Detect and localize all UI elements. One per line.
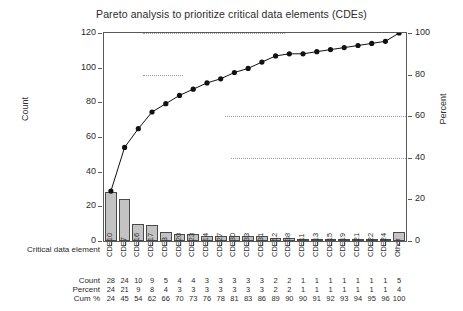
y-tick-left-60: 60: [70, 131, 96, 141]
cumulative-line: [104, 33, 406, 241]
cumulative-point-CDE7: [122, 145, 127, 150]
y-tick-right-20: 20: [415, 193, 441, 203]
cumulative-point-CDE17: [149, 109, 154, 114]
y-tick-right-60: 60: [415, 110, 441, 120]
column-header-CDE17: CDE17: [146, 233, 155, 257]
y-tickmark-left: [98, 172, 102, 173]
column-header-CDE16: CDE16: [132, 233, 141, 257]
y-tickmark-left: [98, 102, 102, 103]
column-header-CDE10: CDE10: [105, 233, 114, 257]
cumulative-point-CDE23: [191, 87, 196, 92]
column-header-CDE15: CDE15: [325, 233, 334, 257]
y-tickmark-right: [408, 199, 412, 200]
cumulative-point-CDE13: [314, 49, 319, 54]
y-axis-right-label: Percent: [438, 79, 448, 139]
chart-title: Pareto analysis to prioritize critical d…: [0, 8, 463, 20]
y-tick-left-100: 100: [70, 62, 96, 72]
row-label-cum: Cum %: [8, 294, 100, 303]
y-tick-left-20: 20: [70, 200, 96, 210]
column-header-CDE14: CDE14: [201, 233, 210, 257]
cell-count-Other: 5: [390, 276, 408, 285]
column-header-CDE13: CDE13: [311, 233, 320, 257]
y-tick-left-120: 120: [70, 27, 96, 37]
cumulative-point-CDE31: [259, 60, 264, 65]
cumulative-point-CDE27: [218, 76, 223, 81]
cell-cum-Other: 100: [390, 294, 408, 303]
y-tick-right-40: 40: [415, 152, 441, 162]
column-header-CDE38: CDE38: [283, 233, 292, 257]
cumulative-point-CDE14: [204, 80, 209, 85]
column-header-CDE3: CDE3: [160, 237, 169, 257]
y-tickmark-right: [408, 33, 412, 34]
column-header-CDE33: CDE33: [242, 233, 251, 257]
y-tickmark-right: [408, 241, 412, 242]
column-header-Other: Other: [393, 238, 402, 257]
cumulative-point-CDE10: [108, 189, 113, 194]
y-tickmark-left: [98, 206, 102, 207]
cumulative-point-CDE19: [342, 45, 347, 50]
column-header-CDE22: CDE22: [366, 233, 375, 257]
column-header-CDE20: CDE20: [174, 233, 183, 257]
cumulative-point-CDE38: [287, 51, 292, 56]
cumulative-point-Other: [397, 33, 402, 36]
y-tickmark-left: [98, 33, 102, 34]
column-header-CDE12: CDE12: [270, 233, 279, 257]
y-tickmark-right: [408, 158, 412, 159]
column-header-CDE24: CDE24: [379, 233, 388, 257]
cumulative-point-CDE22: [369, 41, 374, 46]
cumulative-point-CDE20: [177, 93, 182, 98]
column-header-CDE31: CDE31: [256, 233, 265, 257]
cumulative-point-CDE11: [300, 51, 305, 56]
y-tick-left-0: 0: [70, 235, 96, 245]
cumulative-point-CDE33: [246, 66, 251, 71]
cumulative-point-CDE30: [232, 70, 237, 75]
cumulative-line-series: [104, 33, 406, 241]
y-tickmark-left: [98, 137, 102, 138]
column-header-CDE23: CDE23: [187, 233, 196, 257]
column-header-CDE21: CDE21: [352, 233, 361, 257]
y-axis-left-label: Count: [20, 79, 30, 139]
cumulative-point-CDE24: [383, 39, 388, 44]
y-tickmark-right: [408, 75, 412, 76]
pareto-chart: Pareto analysis to prioritize critical d…: [0, 0, 463, 311]
y-tick-right-100: 100: [415, 27, 441, 37]
cumulative-point-CDE21: [355, 43, 360, 48]
cumulative-point-CDE16: [136, 126, 141, 131]
cell-percent-Other: 4: [390, 285, 408, 294]
column-header-CDE30: CDE30: [228, 233, 237, 257]
column-header-CDE19: CDE19: [338, 233, 347, 257]
y-tick-right-0: 0: [415, 235, 441, 245]
row-label-percent: Percent: [8, 285, 100, 294]
y-tick-left-40: 40: [70, 166, 96, 176]
cumulative-point-CDE3: [163, 101, 168, 106]
cumulative-point-CDE12: [273, 53, 278, 58]
y-tickmark-left: [98, 241, 102, 242]
column-header-CDE27: CDE27: [215, 233, 224, 257]
y-tick-right-80: 80: [415, 69, 441, 79]
column-header-CDE11: CDE11: [297, 233, 306, 257]
y-tickmark-left: [98, 68, 102, 69]
row-label-category: Critical data element: [8, 245, 100, 254]
y-tickmark-right: [408, 116, 412, 117]
y-tick-left-80: 80: [70, 96, 96, 106]
row-label-count: Count: [8, 276, 100, 285]
column-header-CDE7: CDE7: [119, 237, 128, 257]
cumulative-point-CDE15: [328, 47, 333, 52]
